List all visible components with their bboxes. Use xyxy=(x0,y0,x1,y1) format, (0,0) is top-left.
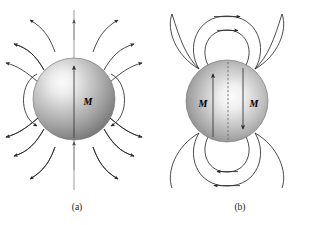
panel-caption-a: (a) xyxy=(72,202,83,213)
panel-b: M M (b) xyxy=(170,14,283,213)
magnetization-label-b-right: M xyxy=(249,98,260,109)
magnetization-label-b-left: M xyxy=(198,98,209,109)
panel-a: M (a) xyxy=(6,10,142,213)
magnetized-sphere-figure: M (a) xyxy=(0,0,309,225)
magnetization-label-a: M xyxy=(83,96,94,107)
panel-caption-b: (b) xyxy=(234,202,245,213)
